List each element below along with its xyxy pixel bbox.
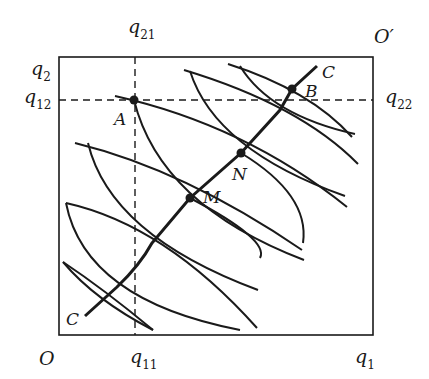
point-m-marker [186,194,195,203]
origin-o-label: O [39,347,55,369]
point-a-marker [130,96,139,105]
q11-label: q11 [130,345,157,372]
origin-o-prime-label: O′ [374,25,395,47]
q12-label: q12 [24,85,51,112]
point-b-marker [288,85,297,94]
indifference-curve [115,96,347,207]
indifference-curve [190,198,261,258]
point-m-label: M [202,187,221,207]
q2-label: q2 [31,57,51,84]
contract-curve-end-label: C [322,62,335,82]
point-b-label: B [304,81,318,101]
q21-label: q21 [128,15,155,42]
edgeworth-box-diagram: A M N B C C O O′ q21 q2 q12 q22 q11 q1 [0,0,429,379]
point-n-label: N [231,164,248,184]
point-a-label: A [112,109,126,129]
q22-label: q22 [385,85,412,112]
point-n-marker [237,149,246,158]
contract-curve-start-label: C [66,309,79,329]
q1-label: q1 [355,345,375,372]
